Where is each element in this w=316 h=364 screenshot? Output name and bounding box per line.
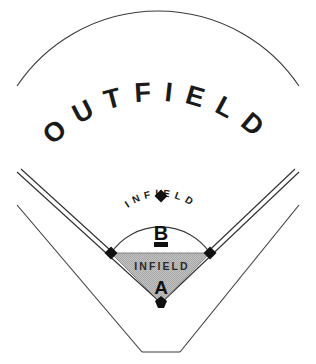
svg-text:OUTFIELD: OUTFIELD bbox=[37, 76, 279, 150]
outfield-label-text: OUTFIELD bbox=[37, 76, 279, 150]
outer-boundary-left bbox=[17, 205, 142, 352]
zone-b-letter: B bbox=[154, 222, 168, 244]
zone-a-letter: A bbox=[154, 277, 168, 298]
outfield-label: OUTFIELD bbox=[37, 76, 279, 150]
outfield-fence-arc bbox=[17, 11, 299, 86]
pitchers-rubber-icon bbox=[154, 242, 168, 247]
field-svg: OUTFIELD INFIELD B INFIELD A bbox=[0, 0, 316, 364]
baseball-field-diagram: OUTFIELD INFIELD B INFIELD A bbox=[0, 0, 316, 364]
infield-inner-label: INFIELD bbox=[134, 260, 190, 272]
outer-boundary-right bbox=[180, 205, 299, 352]
